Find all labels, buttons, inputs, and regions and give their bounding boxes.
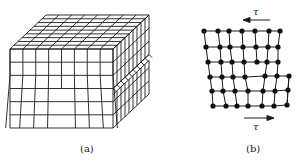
shear-arrow-bottom-icon — [244, 116, 274, 121]
atom-dot — [230, 74, 235, 79]
atom-dot — [210, 103, 215, 108]
atom-dot — [252, 28, 257, 33]
atom-dot — [245, 88, 250, 93]
atom-dot — [227, 44, 232, 49]
atom-dot — [209, 88, 214, 93]
atom-dot — [217, 44, 222, 49]
atom-dot — [245, 103, 250, 108]
atom-dot — [285, 87, 290, 92]
atom-dot — [275, 44, 280, 49]
atom-dot — [265, 44, 270, 49]
atom-dot — [284, 102, 289, 107]
atom-dot — [241, 59, 246, 64]
shear-stress-label-top: τ — [253, 6, 259, 17]
atom-dot — [286, 73, 291, 78]
atom-dot — [266, 28, 271, 33]
shear-arrow-top-icon — [243, 18, 270, 23]
atom-dot — [223, 103, 228, 108]
atom-dot — [275, 59, 280, 64]
atom-dot — [201, 28, 206, 33]
shear-stress-label-bottom: τ — [253, 121, 259, 132]
atom-dot — [220, 88, 225, 93]
atom-dot — [274, 73, 279, 78]
panel-a-caption: (a) — [80, 143, 94, 154]
atom-dot — [262, 73, 267, 78]
atom-dot — [234, 103, 239, 108]
panel-a-lattice-block — [6, 15, 152, 128]
atom-dot — [219, 74, 224, 79]
atom-dot — [207, 74, 212, 79]
atom-dot — [271, 103, 276, 108]
atom-dot — [259, 103, 264, 108]
atom-dot — [264, 59, 269, 64]
atom-dot — [218, 59, 223, 64]
dislocation-figure — [0, 0, 300, 164]
atom-dot — [232, 88, 237, 93]
panel-b-atomic-lattice — [201, 28, 291, 108]
atom-dot — [242, 74, 247, 79]
atom-dot — [240, 44, 245, 49]
panel-b-caption: (b) — [246, 143, 260, 154]
atom-dot — [239, 28, 244, 33]
atom-dot — [260, 88, 265, 93]
atom-dot — [272, 88, 277, 93]
atom-dot — [253, 44, 258, 49]
atom-dot — [277, 28, 282, 33]
atom-dot — [203, 44, 208, 49]
atom-dot — [215, 28, 220, 33]
atom-dot — [205, 59, 210, 64]
atom-dot — [254, 59, 259, 64]
atom-dot — [226, 28, 231, 33]
atom-dot — [229, 59, 234, 64]
